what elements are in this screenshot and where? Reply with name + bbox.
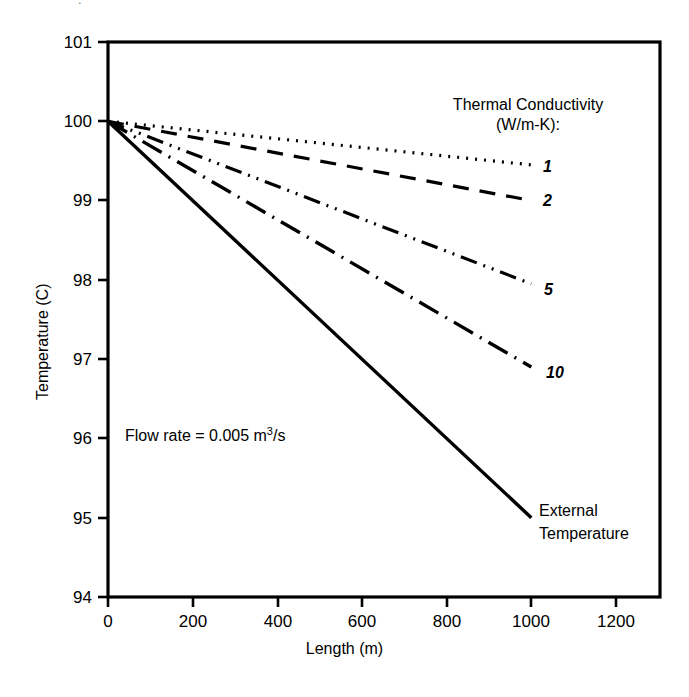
y-axis-title: Temperature (C)	[34, 284, 52, 400]
series-line-5	[108, 121, 531, 284]
series-label-5: 5	[544, 281, 553, 299]
external-temp-label-line2: Temperature	[539, 524, 629, 544]
external-temp-label-line1: External	[539, 501, 598, 521]
xtick-label-1200: 1200	[586, 612, 646, 632]
legend-title-line2: (W/m-K):	[398, 116, 658, 134]
ytick-label-101: 101	[46, 33, 92, 53]
flow-rate-text: Flow rate = 0.005 m	[125, 427, 267, 444]
xtick-label-1000: 1000	[501, 612, 561, 632]
xtick-label-400: 400	[248, 612, 308, 632]
series-label-10: 10	[546, 364, 564, 382]
series-label-1: 1	[543, 158, 552, 176]
series-layer	[108, 121, 531, 517]
xtick-label-600: 600	[332, 612, 392, 632]
ytick-label-100: 100	[46, 112, 92, 132]
ytick-label-94: 94	[46, 588, 92, 608]
ytick-label-97: 97	[46, 350, 92, 370]
xtick-label-800: 800	[417, 612, 477, 632]
figure-root: . 101 100 99 98 97 96	[0, 0, 689, 697]
ytick-label-99: 99	[46, 191, 92, 211]
xtick-label-200: 200	[163, 612, 223, 632]
series-line-external-temperature	[108, 121, 531, 517]
flow-rate-annotation: Flow rate = 0.005 m3/s	[125, 425, 285, 445]
legend-title-line1: Thermal Conductivity	[398, 96, 658, 114]
flow-rate-unit-tail: /s	[273, 427, 285, 444]
series-label-2: 2	[543, 192, 552, 210]
ytick-label-98: 98	[46, 271, 92, 291]
ytick-label-95: 95	[46, 509, 92, 529]
xtick-label-0: 0	[78, 612, 138, 632]
x-axis-title: Length (m)	[0, 640, 689, 658]
ytick-label-96: 96	[46, 429, 92, 449]
